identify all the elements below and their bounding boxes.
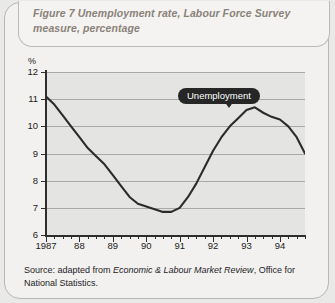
y-tick-label: 11	[18, 93, 38, 104]
source-publication: Economic & Labour Market Review	[113, 265, 254, 275]
x-tick-label: 1987	[30, 240, 62, 251]
x-tick-minor	[288, 236, 289, 239]
x-axis	[45, 235, 306, 237]
y-tick-label: 12	[18, 66, 38, 77]
x-tick-minor	[121, 236, 122, 239]
y-tick-label: 6	[18, 229, 38, 240]
x-tick-minor	[171, 236, 172, 239]
unemployment-callout-label: Unemployment	[178, 88, 260, 104]
source-prefix: Source: adapted from	[24, 265, 113, 275]
figure-screenshot: Figure 7 Unemployment rate, Labour Force…	[0, 0, 335, 303]
y-tick-label: 10	[18, 120, 38, 131]
x-tick-label: 89	[97, 240, 129, 251]
x-tick-label: 90	[130, 240, 162, 251]
page-title: Figure 7 Unemployment rate, Labour Force…	[33, 6, 323, 35]
x-tick-minor	[88, 236, 89, 239]
x-tick-minor	[196, 236, 197, 239]
x-tick-minor	[305, 236, 306, 239]
x-tick-label: 93	[231, 240, 263, 251]
y-tick-label: 9	[18, 148, 38, 159]
x-tick-minor	[230, 236, 231, 239]
x-tick-minor	[255, 236, 256, 239]
figure-title-box: Figure 7 Unemployment rate, Labour Force…	[18, 1, 330, 47]
x-tick-minor	[163, 236, 164, 239]
x-tick-minor	[272, 236, 273, 239]
x-tick-minor	[238, 236, 239, 239]
x-tick-label: 92	[197, 240, 229, 251]
y-axis-unit-label: %	[28, 56, 36, 66]
data-line-chart	[46, 72, 305, 235]
x-tick-minor	[297, 236, 298, 239]
source-note: Source: adapted from Economic & Labour M…	[24, 264, 316, 289]
x-tick-minor	[71, 236, 72, 239]
x-tick-minor	[104, 236, 105, 239]
x-tick-minor	[63, 236, 64, 239]
x-tick-minor	[54, 236, 55, 239]
x-tick-label: 94	[264, 240, 296, 251]
unemployment-series-line	[46, 96, 305, 211]
x-tick-minor	[221, 236, 222, 239]
x-tick-minor	[188, 236, 189, 239]
x-tick-label: 88	[63, 240, 95, 251]
x-tick-minor	[138, 236, 139, 239]
y-tick-label: 7	[18, 202, 38, 213]
y-tick-label: 8	[18, 175, 38, 186]
x-tick-label: 91	[164, 240, 196, 251]
callout-pointer-icon	[224, 101, 234, 108]
x-tick-minor	[155, 236, 156, 239]
x-tick-minor	[130, 236, 131, 239]
x-tick-minor	[96, 236, 97, 239]
x-tick-minor	[205, 236, 206, 239]
x-tick-minor	[263, 236, 264, 239]
